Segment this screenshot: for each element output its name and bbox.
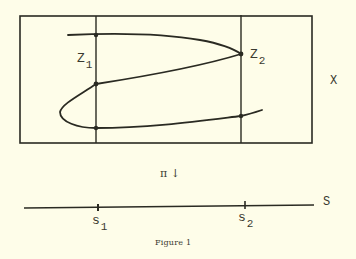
label-z2-base: z [250,47,258,62]
label-z1-base: z [77,51,85,66]
base-line-s [24,205,314,208]
intersection-dot [94,126,98,130]
figure-caption: Figure 1 [155,238,191,247]
label-z2: z2 [250,48,265,61]
label-base-s: S [323,196,330,208]
label-z2-subscript: 2 [259,55,266,67]
label-space-x: X [330,75,337,87]
label-projection-pi: π ↓ [160,168,180,179]
label-s1-base: s [92,213,100,228]
label-s2-subscript: 2 [247,218,254,230]
diagram-canvas [0,0,356,259]
label-s2-base: s [238,210,246,225]
label-s1: s1 [92,214,107,227]
label-s2: s2 [238,211,253,224]
curve-in-x [60,34,262,128]
z2-dot [239,52,244,57]
label-z1: z1 [77,52,92,65]
intersection-dot [94,33,98,37]
label-s1-subscript: 1 [101,221,108,233]
intersection-dot [239,114,243,118]
z1-dot [94,82,99,87]
label-z1-subscript: 1 [86,59,93,71]
